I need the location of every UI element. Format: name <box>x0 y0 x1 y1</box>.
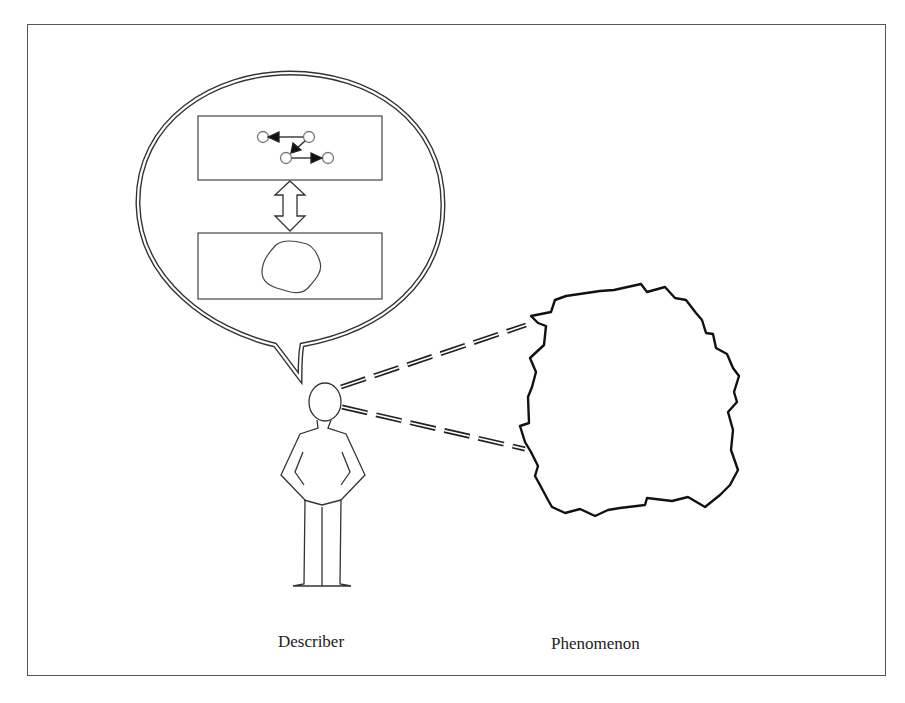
diagram-canvas <box>0 0 905 703</box>
phenomenon-shape <box>520 284 739 516</box>
image-box <box>198 233 382 299</box>
model-box <box>198 116 382 180</box>
phenomenon-label: Phenomenon <box>551 634 640 654</box>
describer-figure <box>281 383 365 586</box>
double-arrow-icon <box>275 181 305 231</box>
sight-lines <box>341 325 526 449</box>
node-graph-icon <box>258 132 334 164</box>
blob-shape <box>262 241 321 293</box>
describer-label: Describer <box>278 632 344 652</box>
